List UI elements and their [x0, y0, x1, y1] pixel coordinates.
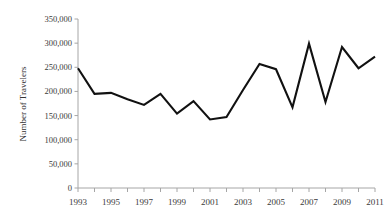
x-axis-tick-label: 2011 [366, 197, 384, 207]
chart-canvas: Number of Travelers 050,000100,000150,00… [0, 0, 388, 219]
x-axis-tick-label: 1997 [135, 197, 154, 207]
y-axis-tick-label: 50,000 [49, 159, 72, 169]
x-axis-tick-marks [78, 188, 375, 192]
y-axis-tick-label: 350,000 [44, 14, 72, 24]
y-axis-tick-label: 150,000 [44, 111, 72, 121]
y-axis-tick-label: 300,000 [44, 38, 72, 48]
y-axis-tick-label: 250,000 [44, 62, 72, 72]
x-axis-tick-label: 1995 [102, 197, 121, 207]
x-axis-tick-label: 2001 [201, 197, 219, 207]
x-axis-tick-label: 1993 [69, 197, 88, 207]
y-axis-title: Number of Travelers [18, 66, 28, 141]
x-axis-tick-label: 2003 [234, 197, 253, 207]
x-axis-tick-label: 1999 [168, 197, 187, 207]
x-axis-tick-label: 2005 [267, 197, 286, 207]
y-axis-tick-marks [75, 19, 79, 188]
y-axis-tick-label: 100,000 [44, 135, 72, 145]
x-axis-tick-label: 2009 [333, 197, 352, 207]
x-axis-tick-label: 2007 [300, 197, 319, 207]
data-series-number-of-travelers [78, 44, 375, 120]
y-axis-tick-label: 0 [68, 183, 72, 193]
y-axis-tick-label: 200,000 [44, 86, 72, 96]
y-axis-tick-labels: 050,000100,000150,000200,000250,000300,0… [44, 14, 72, 193]
line-chart: Number of Travelers 050,000100,000150,00… [0, 0, 388, 219]
x-axis-tick-labels: 1993199519971999200120032005200720092011 [69, 197, 384, 207]
